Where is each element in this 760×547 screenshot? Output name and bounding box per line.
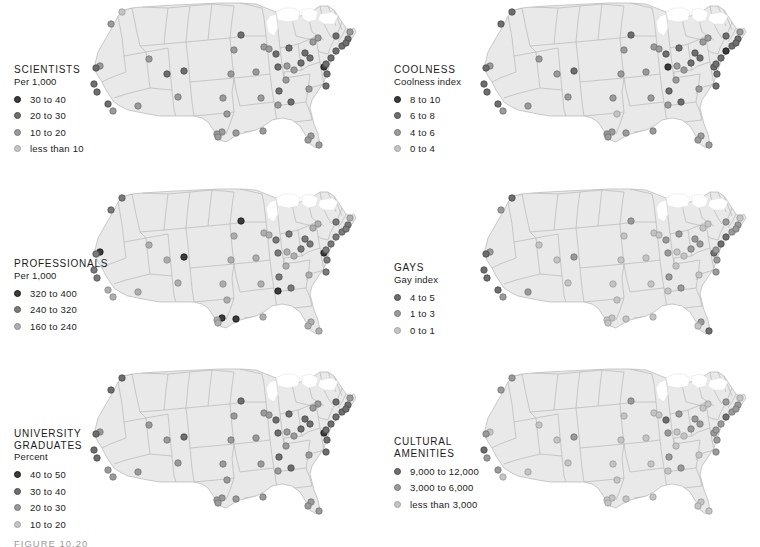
legend-row: 6 to 8 xyxy=(394,108,461,125)
city-dot xyxy=(681,253,687,259)
city-dot xyxy=(674,429,680,435)
city-dot xyxy=(94,89,100,95)
city-dot xyxy=(614,477,620,483)
city-dot xyxy=(333,234,339,240)
city-dot xyxy=(306,86,312,92)
city-dot xyxy=(610,461,616,467)
city-dot xyxy=(105,467,111,473)
legend-university-graduates: UNIVERSITY GRADUATES Percent 40 to 5030 … xyxy=(14,428,82,533)
figure-small-multiples: SCIENTISTS Per 1,000 30 to 4020 to 3010 … xyxy=(0,0,760,547)
city-dot xyxy=(302,416,308,422)
map-landmass xyxy=(94,3,356,148)
city-dot xyxy=(706,142,712,148)
city-dot xyxy=(674,63,680,69)
city-dot xyxy=(723,48,729,54)
city-dot xyxy=(509,375,515,381)
legend-row: 9,000 to 12,000 xyxy=(394,463,479,480)
city-dot xyxy=(678,99,684,105)
city-dot xyxy=(231,233,237,239)
legend-label: less than 10 xyxy=(30,143,84,155)
city-dot xyxy=(500,294,506,300)
city-dot xyxy=(323,247,329,253)
city-dot xyxy=(306,452,312,458)
city-dot xyxy=(175,460,181,466)
us-map-university-graduates xyxy=(80,360,380,542)
city-dot xyxy=(288,285,294,291)
city-dot xyxy=(484,455,490,461)
city-dot xyxy=(656,412,662,418)
legend-label: 30 to 40 xyxy=(30,94,66,106)
legend-swatch-dot xyxy=(14,96,21,103)
city-dot xyxy=(628,32,634,38)
city-dot xyxy=(298,426,304,432)
city-dot xyxy=(276,454,282,460)
city-dot xyxy=(618,257,624,263)
map-panel-university-graduates: UNIVERSITY GRADUATES Percent 40 to 5030 … xyxy=(0,364,380,546)
city-dot xyxy=(233,496,239,502)
city-dot xyxy=(328,241,334,247)
city-dot xyxy=(621,47,627,53)
city-dot xyxy=(93,431,99,437)
city-dot xyxy=(697,421,703,427)
legend-swatch-dot xyxy=(394,484,401,491)
city-dot xyxy=(621,413,627,419)
city-dot xyxy=(108,387,114,393)
legend-swatch-dot xyxy=(14,521,21,528)
legend-label: 3,000 to 6,000 xyxy=(410,482,474,494)
map-landmass xyxy=(94,369,356,514)
city-dot xyxy=(238,32,244,38)
city-dot xyxy=(253,255,259,261)
city-dot xyxy=(276,274,282,280)
city-dot xyxy=(665,430,671,436)
legend-label: 6 to 8 xyxy=(410,110,435,122)
city-dot xyxy=(676,45,682,51)
legend-label: 9,000 to 12,000 xyxy=(410,466,479,478)
city-dot xyxy=(291,433,297,439)
city-dot xyxy=(238,218,244,224)
city-dot xyxy=(737,29,743,35)
map-panel-coolness: COOLNESS Coolness index 8 to 106 to 84 t… xyxy=(380,0,760,182)
city-dot xyxy=(737,395,743,401)
city-dot xyxy=(146,56,152,62)
city-dot xyxy=(110,294,116,300)
city-dot xyxy=(525,103,531,109)
city-dot xyxy=(283,443,289,449)
city-dot xyxy=(298,246,304,252)
city-dot xyxy=(94,455,100,461)
legend-swatch-dot xyxy=(394,468,401,475)
city-dot xyxy=(91,447,97,453)
legend-label: 40 to 50 xyxy=(30,469,66,481)
legend-label: 0 to 4 xyxy=(410,143,435,155)
city-dot xyxy=(91,81,97,87)
legend-row: 3,000 to 6,000 xyxy=(394,480,479,497)
legend-row: 8 to 10 xyxy=(394,91,461,108)
city-dot xyxy=(228,71,234,77)
legend-swatch-dot xyxy=(394,112,401,119)
city-dot xyxy=(676,231,682,237)
city-dot xyxy=(623,496,629,502)
city-dot xyxy=(643,69,649,75)
legend-title: CULTURAL AMENITIES xyxy=(394,436,479,459)
legend-row: less than 3,000 xyxy=(394,496,479,513)
city-dot xyxy=(650,494,656,500)
city-dot xyxy=(525,469,531,475)
us-map-professionals xyxy=(80,180,380,362)
city-dot xyxy=(618,437,624,443)
city-dot xyxy=(146,242,152,248)
city-dot xyxy=(273,51,279,57)
city-dot xyxy=(307,241,313,247)
legend-gays: GAYS Gay index 4 to 51 to 30 to 1 xyxy=(394,262,438,339)
city-dot xyxy=(93,251,99,257)
city-dot xyxy=(713,269,719,275)
city-dot xyxy=(696,86,702,92)
city-dot xyxy=(681,67,687,73)
city-dot xyxy=(705,35,711,41)
city-dot xyxy=(323,269,329,275)
legend-row: 160 to 240 xyxy=(14,318,108,335)
city-dot xyxy=(484,89,490,95)
legend-subtitle: Coolness index xyxy=(394,76,461,88)
city-dot xyxy=(273,417,279,423)
city-dot xyxy=(498,387,504,393)
city-dot xyxy=(697,55,703,61)
legend-row: 320 to 400 xyxy=(14,285,108,302)
